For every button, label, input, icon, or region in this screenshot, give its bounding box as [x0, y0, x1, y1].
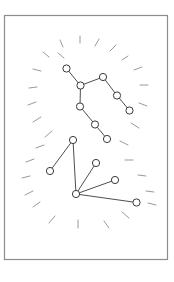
star-node [77, 82, 84, 89]
star-node [72, 190, 79, 197]
star-node [69, 136, 76, 143]
star-node [99, 73, 106, 80]
constellation-figure [0, 0, 174, 282]
star-node [76, 103, 83, 110]
star-node [91, 121, 98, 128]
star-node [113, 92, 120, 99]
star-node [126, 107, 133, 114]
star-node [133, 199, 140, 206]
star-node [111, 176, 118, 183]
star-node [46, 167, 53, 174]
picture-frame [5, 16, 168, 260]
star-node [63, 65, 70, 72]
star-node [92, 159, 99, 166]
constellation-canvas [0, 0, 174, 282]
star-node [103, 135, 110, 142]
